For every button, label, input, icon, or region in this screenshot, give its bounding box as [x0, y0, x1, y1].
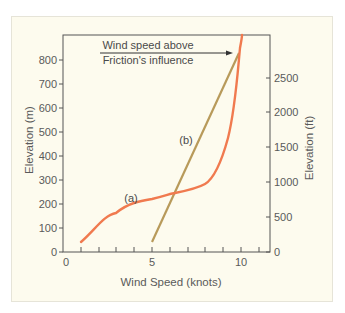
y-axis-title-right: Elevation (ft) — [303, 116, 315, 181]
series-a-curve — [81, 35, 242, 242]
series-a-label: (a) — [124, 192, 137, 204]
y-tick-label: 100 — [39, 222, 57, 234]
y-axis-right — [266, 78, 270, 252]
annotation-line1: Wind speed above — [102, 39, 193, 51]
y-axis-title-left: Elevation (m) — [23, 106, 35, 174]
y-tick-label: 0 — [51, 246, 57, 258]
annotation-line2: Friction's influence — [103, 54, 194, 66]
y-tick-label: 500 — [39, 126, 57, 138]
y-tick-label: 600 — [39, 102, 57, 114]
y-tick-label: 800 — [39, 54, 57, 66]
y-tick-label: 200 — [39, 198, 57, 210]
x-axis — [81, 247, 259, 252]
y-axis-left — [59, 60, 63, 252]
x-axis-title: Wind Speed (knots) — [121, 276, 222, 288]
series-b-label: (b) — [179, 134, 192, 146]
y-tick-label: 400 — [39, 150, 57, 162]
y-right-tick-label: 0 — [274, 246, 280, 258]
y-right-tick-label: 1000 — [274, 176, 298, 188]
y-right-tick-label: 1500 — [274, 141, 298, 153]
arrow-head-icon — [226, 51, 233, 56]
chart-svg: 0 100 200 300 400 500 600 700 800 0 500 … — [0, 0, 345, 313]
y-tick-label: 700 — [39, 78, 57, 90]
y-tick-label: 300 — [39, 174, 57, 186]
x-tick-label: 10 — [235, 256, 247, 268]
y-axis-right-labels: 0 500 1000 1500 2000 2500 — [274, 72, 298, 258]
y-axis-left-labels: 0 100 200 300 400 500 600 700 800 — [39, 54, 57, 258]
y-right-tick-label: 2000 — [274, 106, 298, 118]
x-tick-label: 5 — [149, 256, 155, 268]
x-axis-labels: 0 5 10 — [63, 256, 247, 268]
y-right-tick-label: 2500 — [274, 72, 298, 84]
y-right-tick-label: 500 — [274, 211, 292, 223]
x-tick-label: 0 — [63, 256, 69, 268]
